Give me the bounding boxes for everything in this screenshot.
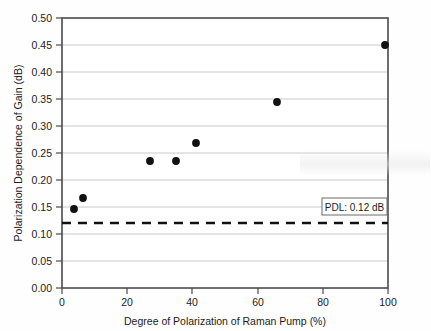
x-tick-label: 0 bbox=[59, 296, 65, 308]
x-tick-label: 20 bbox=[121, 296, 133, 308]
data-point bbox=[70, 205, 78, 213]
data-point bbox=[172, 157, 180, 165]
scatter-plot-svg: 0.50 0.45 0.40 0.35 0.30 0.25 0.20 0.15 … bbox=[0, 0, 431, 331]
data-point bbox=[381, 41, 389, 49]
x-tick-label: 40 bbox=[186, 296, 198, 308]
y-axis-ticks bbox=[56, 18, 62, 288]
data-point bbox=[273, 98, 281, 106]
x-tick-label: 80 bbox=[317, 296, 329, 308]
x-tick-label: 100 bbox=[379, 296, 397, 308]
pdl-annotation-text: PDL: 0.12 dB bbox=[325, 202, 385, 213]
y-tick-label: 0.25 bbox=[32, 147, 53, 159]
y-axis-title: Polarization Dependence of Gain (dB) bbox=[12, 65, 24, 242]
y-tick-label: 0.20 bbox=[32, 174, 53, 186]
pdl-annotation-box: PDL: 0.12 dB bbox=[322, 198, 387, 215]
data-point bbox=[192, 139, 200, 147]
y-tick-label: 0.30 bbox=[32, 120, 53, 132]
data-point bbox=[79, 194, 87, 202]
x-axis-ticks bbox=[62, 288, 388, 294]
y-tick-label: 0.05 bbox=[32, 255, 53, 267]
y-tick-label: 0.35 bbox=[32, 93, 53, 105]
chart-figure: 0.50 0.45 0.40 0.35 0.30 0.25 0.20 0.15 … bbox=[0, 0, 431, 331]
y-tick-label: 0.15 bbox=[32, 201, 53, 213]
y-tick-label: 0.40 bbox=[32, 66, 53, 78]
y-tick-label: 0.10 bbox=[32, 228, 53, 240]
y-tick-label: 0.00 bbox=[32, 282, 53, 294]
x-tick-label: 60 bbox=[252, 296, 264, 308]
y-tick-label: 0.50 bbox=[32, 12, 53, 24]
y-axis-tick-labels: 0.50 0.45 0.40 0.35 0.30 0.25 0.20 0.15 … bbox=[32, 12, 53, 294]
data-point bbox=[146, 157, 154, 165]
x-axis-tick-labels: 0 20 40 60 80 100 bbox=[59, 296, 397, 308]
x-axis-title: Degree of Polarization of Raman Pump (%) bbox=[124, 315, 326, 327]
y-tick-label: 0.45 bbox=[32, 39, 53, 51]
